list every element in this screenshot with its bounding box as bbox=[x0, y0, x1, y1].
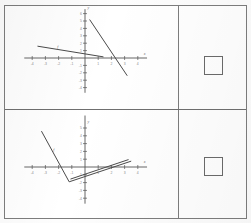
svg-text:4: 4 bbox=[137, 171, 139, 175]
svg-text:3: 3 bbox=[124, 62, 126, 66]
svg-text:2: 2 bbox=[80, 42, 82, 46]
chart-bottom: -4-3-2-11234-4-3-2-112345fyx bbox=[5, 110, 178, 220]
coordinate-plane-bottom: -4-3-2-11234-4-3-2-112345fyx bbox=[5, 110, 178, 220]
worksheet-frame: -4-3-2-11234-4-3-2-1123456fyx -4-3-2-112… bbox=[4, 5, 247, 219]
svg-text:-1: -1 bbox=[79, 64, 82, 68]
svg-text:f: f bbox=[53, 147, 55, 152]
chart-top: -4-3-2-11234-4-3-2-1123456fyx bbox=[5, 6, 178, 109]
svg-text:3: 3 bbox=[80, 34, 82, 38]
svg-text:f: f bbox=[57, 44, 59, 49]
svg-text:-2: -2 bbox=[79, 71, 82, 75]
svg-text:4: 4 bbox=[137, 62, 139, 66]
svg-text:4: 4 bbox=[80, 134, 82, 138]
svg-text:y: y bbox=[86, 6, 89, 10]
svg-text:-4: -4 bbox=[79, 197, 82, 201]
svg-text:-3: -3 bbox=[44, 171, 47, 175]
answer-cell-bottom bbox=[179, 110, 248, 220]
svg-text:-4: -4 bbox=[79, 86, 82, 90]
svg-text:-2: -2 bbox=[57, 171, 60, 175]
svg-text:-4: -4 bbox=[31, 171, 34, 175]
svg-text:1: 1 bbox=[97, 62, 99, 66]
svg-text:-3: -3 bbox=[79, 189, 82, 193]
svg-text:-2: -2 bbox=[79, 181, 82, 185]
svg-text:5: 5 bbox=[80, 126, 82, 130]
svg-text:y: y bbox=[86, 119, 89, 124]
coordinate-plane-top: -4-3-2-11234-4-3-2-1123456fyx bbox=[5, 6, 178, 109]
answer-box-top[interactable] bbox=[204, 56, 223, 75]
graph-cell-bottom: -4-3-2-11234-4-3-2-112345fyx bbox=[5, 110, 178, 220]
svg-text:2: 2 bbox=[110, 171, 112, 175]
answer-cell-top bbox=[179, 6, 248, 109]
svg-text:6: 6 bbox=[80, 12, 82, 16]
svg-text:2: 2 bbox=[110, 62, 112, 66]
svg-text:2: 2 bbox=[80, 150, 82, 154]
svg-text:3: 3 bbox=[124, 171, 126, 175]
svg-text:-1: -1 bbox=[70, 62, 73, 66]
answer-box-bottom[interactable] bbox=[204, 157, 223, 176]
svg-text:1: 1 bbox=[80, 49, 82, 53]
worksheet-page: -4-3-2-11234-4-3-2-1123456fyx -4-3-2-112… bbox=[0, 0, 251, 223]
svg-text:1: 1 bbox=[80, 158, 82, 162]
graph-cell-top: -4-3-2-11234-4-3-2-1123456fyx bbox=[5, 6, 178, 109]
svg-text:x: x bbox=[143, 51, 146, 56]
svg-text:-2: -2 bbox=[57, 62, 60, 66]
svg-text:x: x bbox=[143, 159, 146, 164]
svg-text:-1: -1 bbox=[70, 171, 73, 175]
svg-text:-3: -3 bbox=[79, 79, 82, 83]
svg-text:4: 4 bbox=[80, 27, 82, 31]
svg-text:3: 3 bbox=[80, 142, 82, 146]
svg-text:5: 5 bbox=[80, 19, 82, 23]
svg-text:-3: -3 bbox=[44, 62, 47, 66]
svg-text:-4: -4 bbox=[31, 62, 34, 66]
